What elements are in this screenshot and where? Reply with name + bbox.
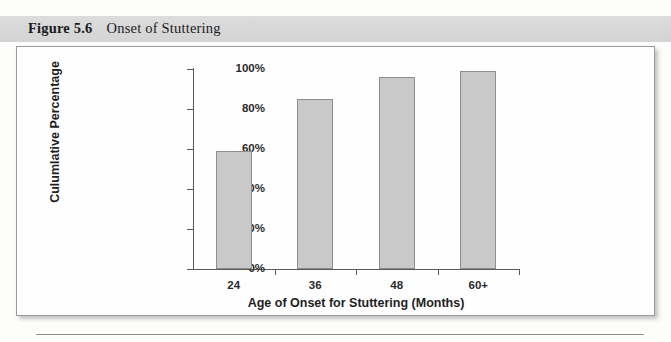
x-axis-tick-label: 60+ [448, 279, 508, 291]
figure-container: Figure 5.6Onset of Stuttering Culumlativ… [0, 0, 671, 342]
bar [216, 151, 252, 269]
page-divider-rule [36, 334, 644, 335]
x-axis-tick [438, 269, 439, 275]
plot-area: Culumlative Percentage Age of Onset for … [17, 47, 656, 317]
y-axis-tick-label: 100% [221, 62, 265, 74]
chart-panel: Culumlative Percentage Age of Onset for … [16, 46, 655, 316]
y-axis-title: Culumlative Percentage [48, 32, 62, 232]
bar [297, 99, 333, 269]
x-axis-tick-label: 24 [204, 279, 264, 291]
y-axis-tick [187, 189, 193, 190]
figure-title: Onset of Stuttering [93, 20, 221, 36]
y-axis-line [193, 68, 194, 270]
y-axis-tick [187, 229, 193, 230]
y-axis-tick [187, 149, 193, 150]
x-axis-tick [275, 269, 276, 275]
x-axis-tick-label: 48 [367, 279, 427, 291]
x-axis-tick [519, 269, 520, 275]
y-axis-tick-label: 80% [221, 102, 265, 114]
x-axis-title: Age of Onset for Stuttering (Months) [193, 296, 519, 310]
y-axis-tick [187, 109, 193, 110]
x-axis-tick [356, 269, 357, 275]
bar [379, 77, 415, 269]
y-axis-tick [187, 69, 193, 70]
bar [460, 71, 496, 269]
x-axis-tick-label: 36 [285, 279, 345, 291]
y-axis-tick [187, 269, 193, 270]
